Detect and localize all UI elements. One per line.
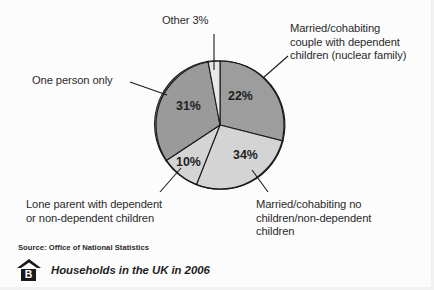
pie-chart: Other 3% Married/cohabiting couple with …: [0, 0, 434, 246]
pie-value-nuclear: 22%: [228, 89, 253, 103]
pie-value-one-person: 31%: [176, 99, 201, 113]
pie-label-nuclear-family: Married/cohabiting couple with dependent…: [290, 22, 432, 63]
source-note: Source: Office of National Statistics: [18, 243, 149, 252]
caption-row: B Households in the UK in 2006: [16, 258, 210, 282]
pie-label-one-person-only: One person only: [32, 74, 113, 88]
house-b-icon: B: [16, 258, 42, 282]
leader-line-nuclear: [263, 56, 288, 78]
house-roof-shape: [17, 259, 41, 268]
leader-line-lone-parent: [160, 168, 181, 192]
pie-label-other: Other 3%: [162, 14, 208, 28]
house-icon-letter: B: [25, 268, 33, 280]
figure-caption: Households in the UK in 2006: [51, 264, 210, 276]
pie-label-married-no-children: Married/cohabiting no children/non-depen…: [256, 198, 406, 239]
pie-value-married-no-children: 34%: [233, 148, 258, 162]
pie-value-lone-parent: 10%: [176, 155, 201, 169]
leader-line-one-person: [130, 82, 167, 95]
figure-panel: Other 3% Married/cohabiting couple with …: [0, 0, 434, 290]
pie-label-lone-parent: Lone parent with dependent or non-depend…: [26, 198, 216, 225]
